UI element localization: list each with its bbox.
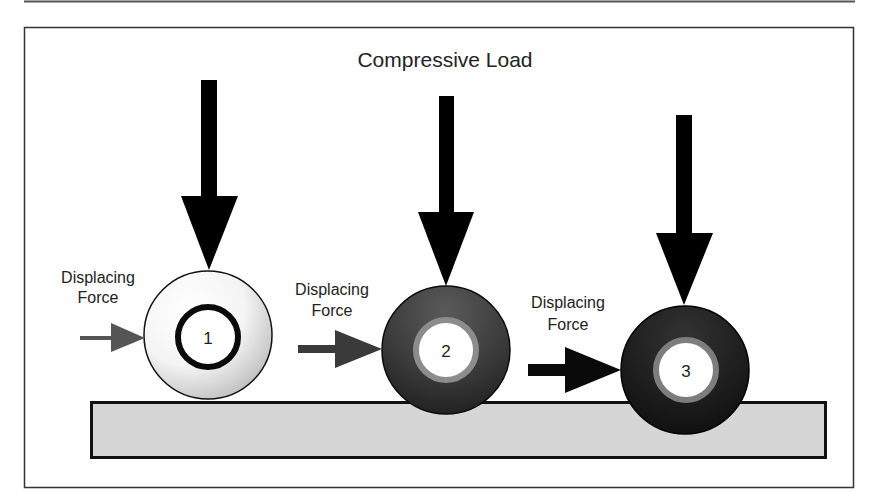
- displacing-force-label-line2: Force: [548, 316, 589, 333]
- displacing-force-label-line2: Force: [78, 289, 119, 306]
- displacing-force-label-line1: Displacing: [531, 294, 605, 311]
- displacing-force-label-line2: Force: [312, 302, 353, 319]
- displacing-force-label-line1: Displacing: [61, 269, 135, 286]
- diagram-title: Compressive Load: [357, 48, 532, 71]
- stage-number: 3: [681, 362, 690, 381]
- diagram-canvas: Compressive Load 1 Displacing Force 2 D: [0, 0, 877, 503]
- stage-number: 1: [203, 329, 212, 348]
- displacing-force-label-line1: Displacing: [295, 281, 369, 298]
- stage-number: 2: [441, 342, 450, 361]
